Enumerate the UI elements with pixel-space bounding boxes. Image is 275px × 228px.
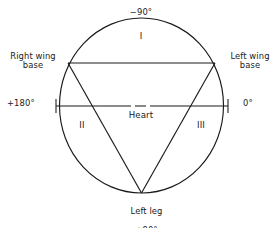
left-degree-label: +180° bbox=[7, 99, 35, 108]
bottom-degree-label: +90° bbox=[135, 225, 157, 228]
quadrant-2-label: II bbox=[79, 121, 84, 131]
right-wing-base-label: Right wingbase bbox=[5, 52, 61, 71]
right-degree-label: 0° bbox=[243, 99, 253, 108]
quadrant-1-label: I bbox=[140, 32, 143, 42]
bottom-label: Left leg +90° bbox=[119, 198, 162, 228]
heart-label: Heart bbox=[129, 111, 153, 121]
quadrant-3-label: III bbox=[197, 121, 205, 131]
left-leg-name: Left leg bbox=[131, 206, 163, 216]
top-degree-label: −90° bbox=[130, 8, 152, 17]
einthoven-triangle-figure: −90° Right wingbase Left wingbase +180° … bbox=[0, 0, 275, 228]
left-wing-base-label: Left wingbase bbox=[226, 52, 274, 71]
